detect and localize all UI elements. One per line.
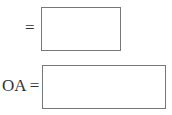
oa-answer-input[interactable] xyxy=(42,65,166,109)
equals-label: = xyxy=(25,19,35,36)
answer-input-1[interactable] xyxy=(41,7,121,51)
oa-equals-label: OA = xyxy=(2,77,39,94)
